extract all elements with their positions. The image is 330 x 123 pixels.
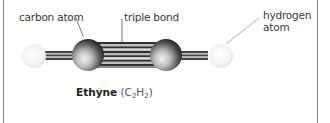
hydrogen-label-line1: hydrogen: [263, 9, 311, 21]
single-bond-right: [178, 51, 208, 60]
molecule-name: Ethyne: [76, 86, 117, 98]
hydrogen-atom-right: [209, 44, 233, 68]
carbon-atom-label: carbon atom: [19, 11, 84, 23]
carbon-atom-left: [72, 39, 104, 71]
hydrogen-atom-left: [22, 44, 46, 68]
single-bond-left: [45, 51, 75, 60]
triple-bond-label: triple bond: [124, 11, 179, 23]
formula-part: ): [149, 86, 153, 98]
formula-part: (C: [120, 86, 131, 98]
hydrogen-atom-label: hydrogen atom: [263, 9, 311, 33]
triple-bond: [95, 42, 157, 68]
hydrogen-label-line2: atom: [263, 21, 311, 33]
molecule-formula: (C2H2): [120, 86, 152, 98]
carbon-atom-right: [150, 39, 182, 71]
molecule-caption: Ethyne (C2H2): [76, 86, 153, 98]
hydrogen-atom-leader-line: [226, 18, 259, 44]
